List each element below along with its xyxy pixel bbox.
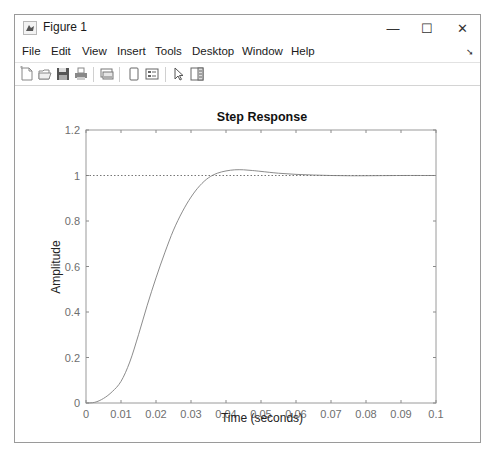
menu-window[interactable]: Window (242, 45, 283, 57)
minimize-button[interactable]: — (376, 17, 410, 39)
x-tick-label: 0.09 (390, 408, 411, 420)
link-plot-icon[interactable] (99, 66, 115, 82)
toolbar-separator (165, 67, 166, 82)
figure-canvas: Step Response 00.010.020.030.040.050.060… (15, 87, 480, 442)
open-folder-icon[interactable] (37, 66, 53, 82)
x-tick-label: 0.08 (355, 408, 376, 420)
y-tick-label: 1 (74, 170, 80, 182)
step-response-chart[interactable]: Step Response 00.010.020.030.040.050.060… (15, 87, 480, 442)
axes: 00.010.020.030.040.050.060.070.080.090.1… (65, 124, 444, 420)
chart-title: Step Response (217, 110, 307, 124)
menu-file[interactable]: File (22, 45, 41, 57)
dock-arrow-icon[interactable]: ➘ (466, 47, 474, 57)
menu-help[interactable]: Help (291, 45, 315, 57)
figure-window: Figure 1 — ☐ ✕ File Edit View Insert Too… (14, 14, 481, 443)
y-tick-label: 0.2 (65, 352, 80, 364)
menu-tools[interactable]: Tools (155, 45, 182, 57)
show-plot-tools-icon[interactable] (144, 66, 160, 82)
x-tick-label: 0.01 (110, 408, 131, 420)
matlab-app-icon (23, 21, 37, 35)
figure-toolbar (15, 62, 480, 86)
maximize-button[interactable]: ☐ (410, 17, 444, 39)
property-inspector-icon[interactable] (189, 66, 205, 82)
x-tick-label: 0.02 (145, 408, 166, 420)
x-axis-label: Time (seconds) (221, 411, 303, 425)
y-tick-label: 0.8 (65, 215, 80, 227)
window-title: Figure 1 (43, 20, 87, 34)
x-tick-label: 0.1 (428, 408, 443, 420)
x-tick-label: 0.07 (320, 408, 341, 420)
close-button[interactable]: ✕ (445, 17, 479, 39)
menu-bar: File Edit View Insert Tools Desktop Wind… (15, 42, 480, 62)
title-bar[interactable]: Figure 1 — ☐ ✕ (15, 15, 480, 41)
print-icon[interactable] (73, 66, 89, 82)
x-tick-label: 0 (83, 408, 89, 420)
hide-plot-tools-icon[interactable] (126, 66, 142, 82)
pointer-arrow-icon[interactable] (171, 66, 187, 82)
y-tick-label: 0 (74, 397, 80, 409)
menu-desktop[interactable]: Desktop (192, 45, 234, 57)
toolbar-separator (93, 67, 94, 82)
x-tick-label: 0.03 (180, 408, 201, 420)
menu-insert[interactable]: Insert (117, 45, 146, 57)
y-tick-label: 1.2 (65, 124, 80, 136)
y-axis-label: Amplitude (49, 240, 63, 294)
menu-edit[interactable]: Edit (51, 45, 71, 57)
menu-view[interactable]: View (82, 45, 107, 57)
new-file-icon[interactable] (19, 66, 35, 82)
y-tick-label: 0.4 (65, 306, 80, 318)
toolbar-separator (119, 67, 120, 82)
save-icon[interactable] (55, 66, 71, 82)
y-tick-label: 0.6 (65, 261, 80, 273)
